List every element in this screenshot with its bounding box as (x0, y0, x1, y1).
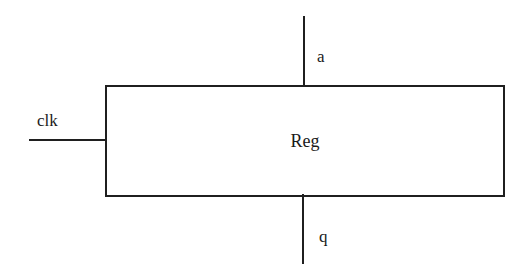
wire-clk (29, 139, 106, 141)
wire-q (302, 194, 304, 264)
register-block: Reg (105, 85, 505, 197)
port-label-a: a (317, 48, 325, 65)
wire-a (303, 16, 305, 86)
block-label: Reg (107, 132, 503, 150)
port-label-clk: clk (37, 112, 58, 129)
port-label-q: q (319, 228, 328, 245)
